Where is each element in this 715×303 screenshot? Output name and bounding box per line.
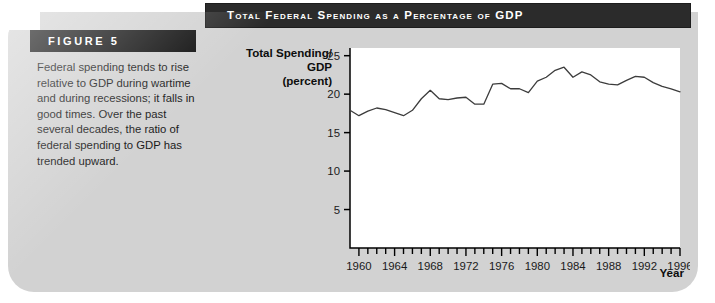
plot-area: 5101520251960196419681972197619801984198… [210, 36, 690, 276]
x-tick-label: 1988 [596, 260, 621, 272]
x-tick-label: 1980 [525, 260, 550, 272]
x-axis-title: Year [659, 266, 684, 279]
figure-title-bar: Total Federal Spending as a Percentage o… [205, 3, 691, 28]
figure-caption: Federal spending tends to rise relative … [37, 60, 200, 169]
page-title: Total Federal Spending as a Percentage o… [227, 3, 524, 28]
y-tick-label: 15 [327, 127, 340, 139]
panel-corner-notch [0, 0, 40, 30]
y-tick-label: 5 [334, 204, 340, 216]
x-tick-label: 1976 [489, 260, 514, 272]
x-tick-label: 1992 [632, 260, 657, 272]
x-tick-label: 1964 [382, 260, 407, 272]
y-tick-label: 25 [327, 50, 340, 62]
chart: Total Spending/ GDP (percent) 5101520251… [210, 36, 690, 276]
y-tick-label: 20 [327, 88, 340, 100]
figure-container: Total Federal Spending as a Percentage o… [0, 0, 715, 303]
x-tick-label: 1968 [418, 260, 443, 272]
figure-number-label: FIGURE 5 [48, 30, 120, 52]
x-tick-label: 1972 [453, 260, 478, 272]
x-tick-label: 1960 [346, 260, 371, 272]
figure-number-bar: FIGURE 5 [30, 30, 196, 52]
y-tick-label: 10 [327, 165, 340, 177]
x-tick-label: 1984 [560, 260, 585, 272]
